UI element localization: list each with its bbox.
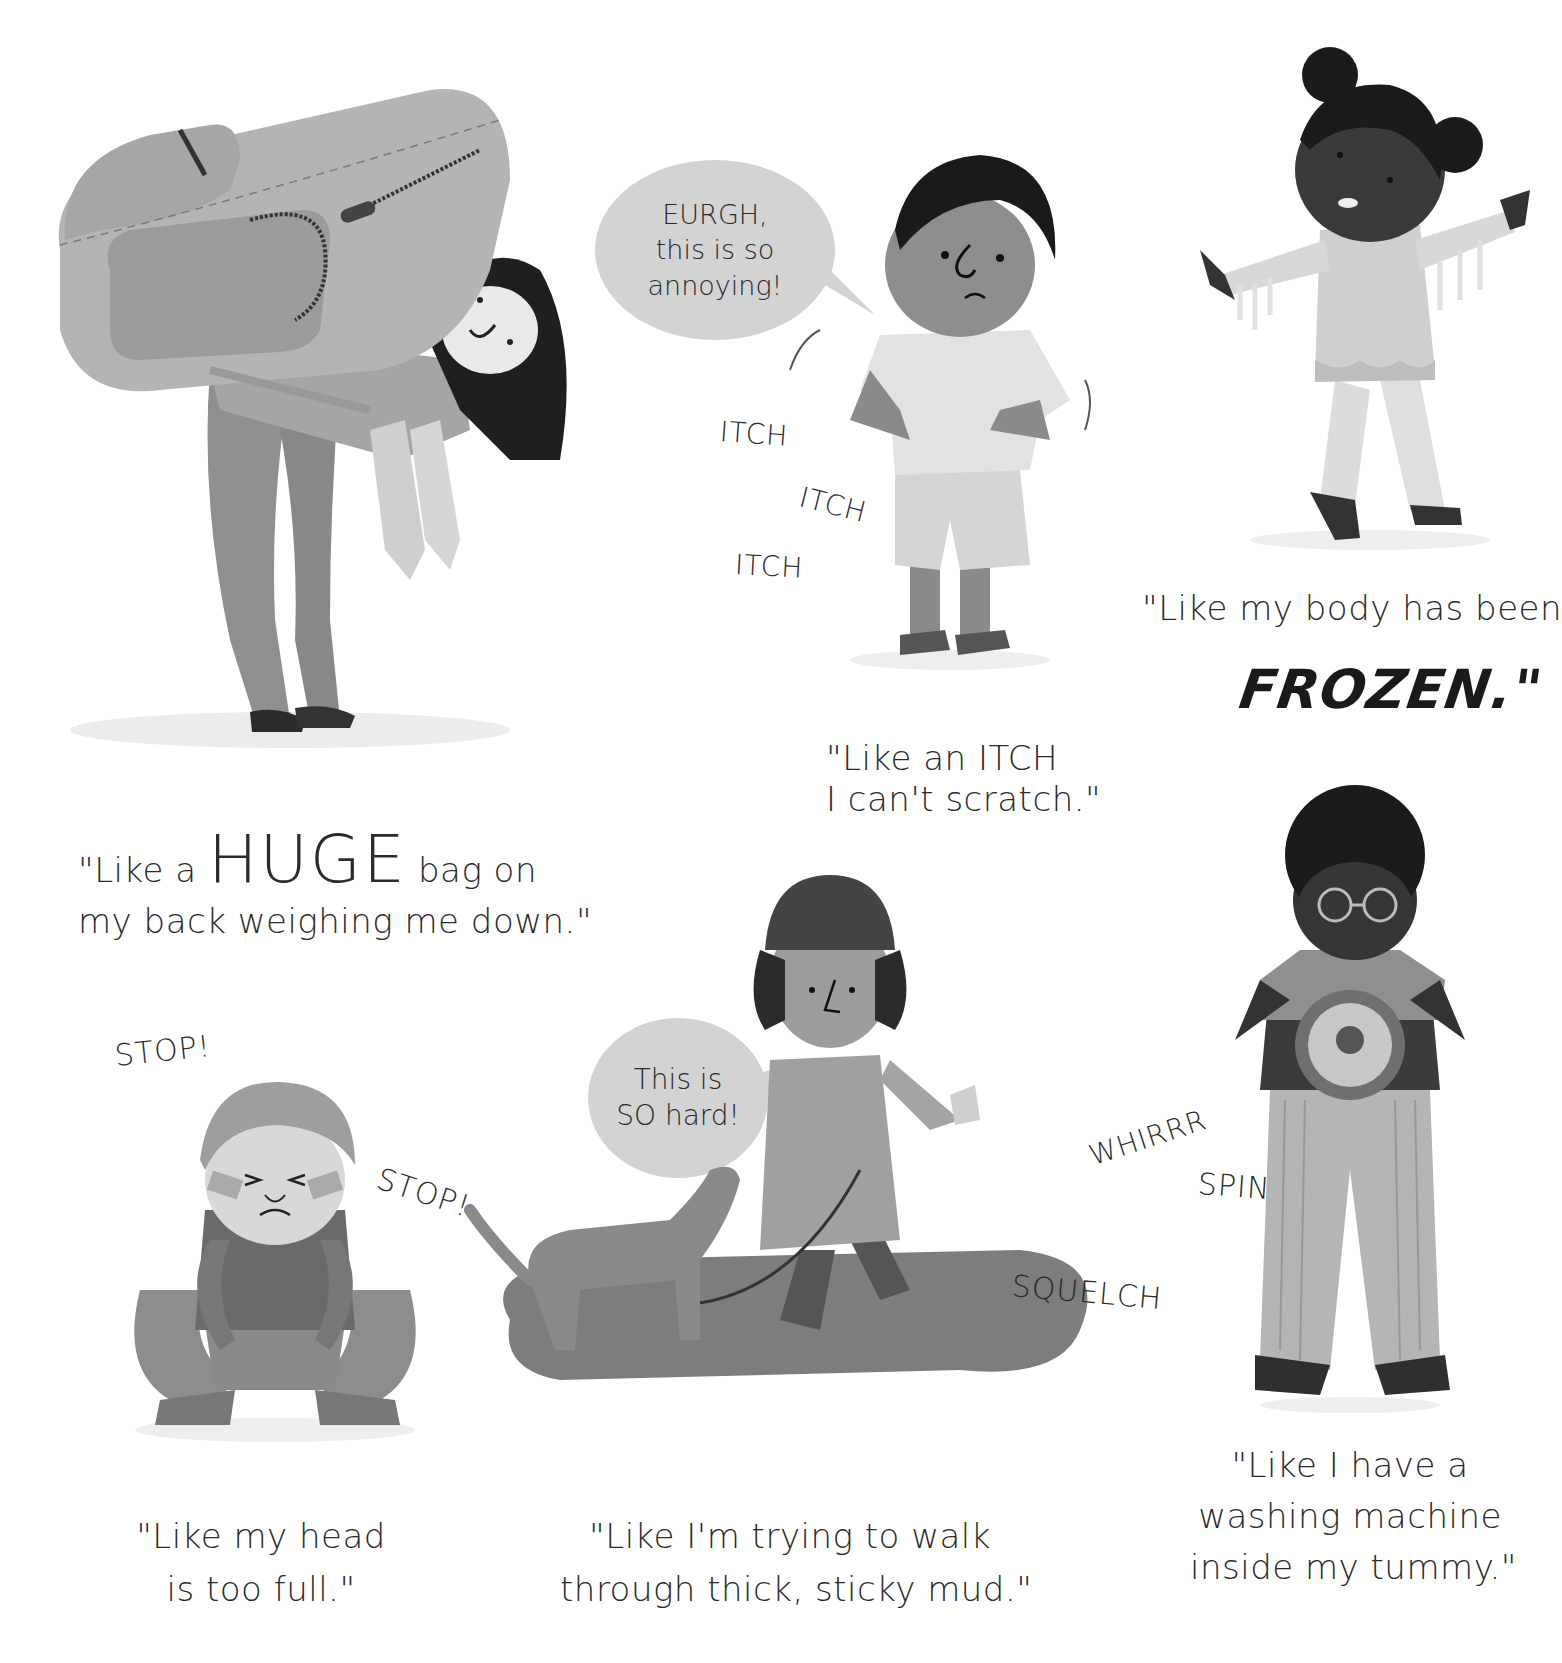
illustration-mud-walk — [460, 880, 1120, 1400]
illustration-frozen-girl — [1180, 60, 1540, 560]
sfx-stop-1: STOP! — [113, 1028, 212, 1073]
illustration-washing-machine-boy — [1200, 800, 1500, 1420]
illustration-itchy-boy — [800, 140, 1100, 700]
caption-washing-machine: "Like I have a washing machine inside my… — [1190, 1440, 1510, 1593]
caption-frozen: "Like my body has been — [1142, 588, 1562, 629]
illustration-squatting-boy — [110, 1070, 440, 1450]
sfx-itch-3: ITCH — [734, 548, 804, 585]
caption-itch: "Like an ITCH I can't scratch." — [826, 738, 1101, 821]
sfx-spin: SPIN — [1197, 1166, 1272, 1206]
sfx-itch-1: ITCH — [719, 415, 789, 453]
caption-head-full: "Like my head is too full." — [136, 1510, 386, 1615]
emphasis-huge: HUGE — [208, 821, 407, 898]
illustration-girl-with-huge-backpack — [40, 80, 600, 760]
speech-bubble-eurgh: EURGH, this is so annoying! — [595, 160, 835, 340]
emphasis-frozen: FROZEN." — [1240, 658, 1542, 721]
caption-mud: "Like I'm trying to walk through thick, … — [560, 1510, 1020, 1615]
